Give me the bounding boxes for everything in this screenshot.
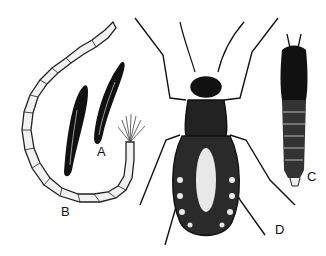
- label-C: C: [307, 170, 316, 183]
- label-A: A: [97, 145, 106, 158]
- label-B: B: [61, 205, 70, 218]
- figure-illustration: [0, 0, 326, 256]
- label-D: D: [275, 223, 284, 236]
- adult-drawing: [135, 18, 295, 245]
- pupa-drawing: [281, 34, 308, 186]
- eggs-drawing: [64, 62, 125, 176]
